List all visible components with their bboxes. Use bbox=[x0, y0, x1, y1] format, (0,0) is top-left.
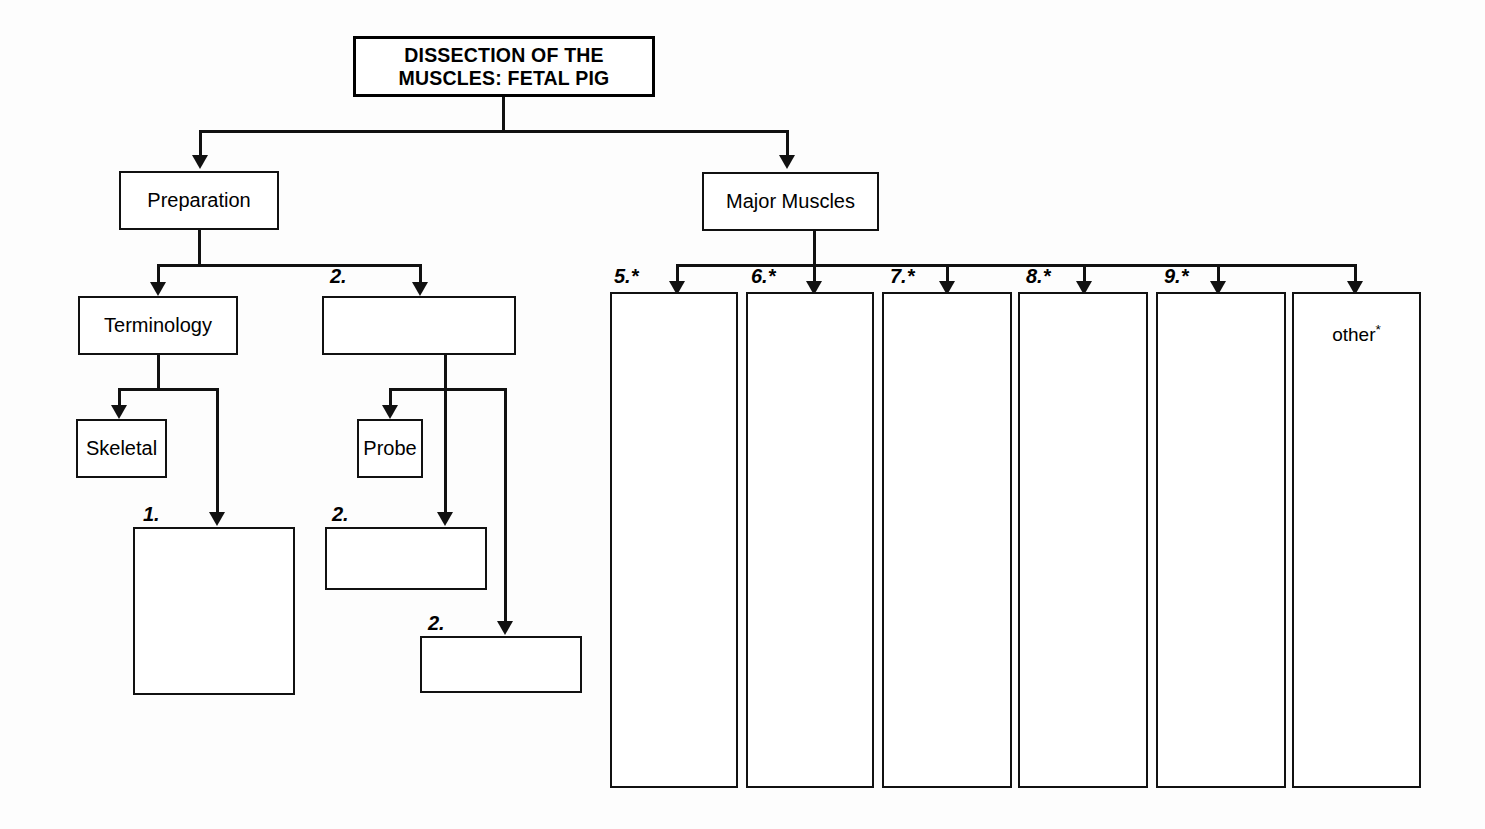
skeletal-box-label: Skeletal bbox=[86, 437, 157, 461]
connector-prep-blank-stem bbox=[444, 355, 447, 514]
terminology-blank-box[interactable] bbox=[133, 527, 295, 695]
major-muscles-box[interactable]: Major Muscles bbox=[702, 172, 879, 231]
muscle-column-8-box[interactable] bbox=[1018, 292, 1148, 788]
muscle-column-9-caption-number: 9. bbox=[1164, 265, 1181, 287]
other-label-star: * bbox=[1375, 322, 1380, 337]
connector-terminology-bus bbox=[118, 388, 219, 391]
arrowhead-skeletal bbox=[111, 405, 127, 419]
connector-to-terminology-blank bbox=[216, 388, 219, 514]
arrowhead-probe-blank-b bbox=[497, 621, 513, 635]
arrowhead-prep-blank bbox=[412, 282, 428, 296]
connector-to-preparation bbox=[199, 130, 202, 156]
probe-box-label: Probe bbox=[363, 437, 416, 461]
prep-blank-box[interactable] bbox=[322, 296, 516, 355]
muscle-column-8-caption-star: * bbox=[1043, 265, 1051, 287]
arrowhead-preparation bbox=[192, 155, 208, 169]
muscle-column-5-caption-number: 5. bbox=[614, 265, 631, 287]
arrowhead-major-muscles bbox=[779, 155, 795, 169]
connector-title-stem bbox=[502, 97, 505, 130]
muscle-column-9-box[interactable] bbox=[1156, 292, 1286, 788]
arrowhead-probe-blank-a bbox=[437, 512, 453, 526]
connector-top-bus bbox=[199, 130, 789, 133]
muscle-column-6-caption-star: * bbox=[768, 265, 776, 287]
connector-to-probe-blank-b bbox=[504, 388, 507, 623]
muscle-column-7-box[interactable] bbox=[882, 292, 1012, 788]
arrowhead-terminology-blank bbox=[209, 512, 225, 526]
connector-prep-blank-bus bbox=[389, 388, 507, 391]
probe-blank-b-box[interactable] bbox=[420, 636, 582, 693]
connector-to-major-muscles bbox=[786, 130, 789, 156]
connector-preparation-stem bbox=[198, 230, 201, 266]
muscle-column-8-caption-number: 8. bbox=[1026, 265, 1043, 287]
muscle-column-other-box-label: other* bbox=[1332, 302, 1381, 347]
preparation-box-label: Preparation bbox=[147, 189, 250, 213]
muscle-column-8-caption: 8.* bbox=[1026, 265, 1050, 288]
terminology-box[interactable]: Terminology bbox=[78, 296, 238, 355]
muscle-column-6-caption: 6.* bbox=[751, 265, 775, 288]
muscle-column-9-caption-star: * bbox=[1181, 265, 1189, 287]
muscle-column-6-caption-number: 6. bbox=[751, 265, 768, 287]
probe-box[interactable]: Probe bbox=[357, 419, 423, 478]
probe-blank-a-caption: 2. bbox=[332, 503, 349, 526]
skeletal-box[interactable]: Skeletal bbox=[76, 419, 167, 478]
prep-blank-caption: 2. bbox=[330, 265, 347, 288]
connector-preparation-bus bbox=[157, 264, 422, 267]
muscle-column-5-caption-star: * bbox=[631, 265, 639, 287]
terminology-box-label: Terminology bbox=[104, 314, 212, 338]
arrowhead-terminology bbox=[150, 282, 166, 296]
muscle-column-7-caption-number: 7. bbox=[890, 265, 907, 287]
probe-blank-a-box[interactable] bbox=[325, 527, 487, 590]
arrowhead-probe bbox=[382, 405, 398, 419]
muscle-column-7-caption-star: * bbox=[907, 265, 915, 287]
muscle-column-9-caption: 9.* bbox=[1164, 265, 1188, 288]
connector-terminology-stem bbox=[157, 355, 160, 390]
connector-muscles-bus bbox=[676, 264, 1357, 267]
title-box-label: DISSECTION OF THE MUSCLES: FETAL PIG bbox=[399, 44, 610, 90]
probe-blank-b-caption: 2. bbox=[428, 612, 445, 635]
other-label-text: other bbox=[1332, 324, 1375, 345]
muscle-column-other-box[interactable]: other* bbox=[1292, 292, 1421, 788]
muscle-column-7-caption: 7.* bbox=[890, 265, 914, 288]
terminology-blank-caption: 1. bbox=[143, 503, 160, 526]
connector-major-muscles-stem bbox=[813, 231, 816, 266]
muscle-column-5-box[interactable] bbox=[610, 292, 738, 788]
preparation-box[interactable]: Preparation bbox=[119, 171, 279, 230]
major-muscles-box-label: Major Muscles bbox=[726, 190, 855, 214]
flowchart-canvas: DISSECTION OF THE MUSCLES: FETAL PIG Pre… bbox=[0, 0, 1485, 829]
title-box[interactable]: DISSECTION OF THE MUSCLES: FETAL PIG bbox=[353, 36, 655, 97]
muscle-column-5-caption: 5.* bbox=[614, 265, 638, 288]
muscle-column-6-box[interactable] bbox=[746, 292, 874, 788]
